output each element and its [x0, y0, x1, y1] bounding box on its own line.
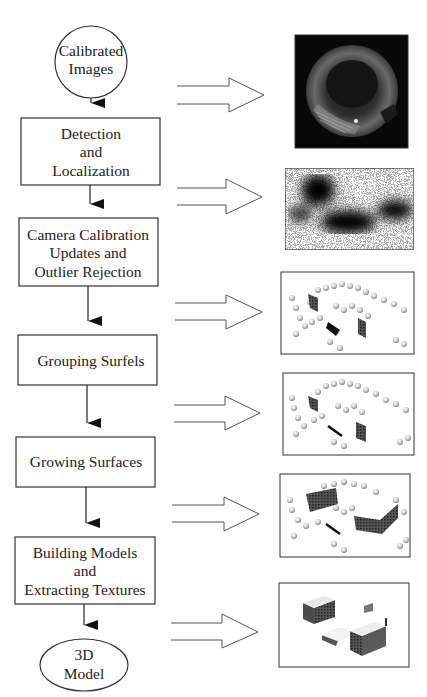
node-3d-model: 3D Model [40, 639, 128, 691]
node-detection-localization: Detection and Localization [21, 118, 160, 185]
result-image-3d-model [279, 583, 409, 667]
node-label-line: Outlier Rejection [34, 263, 141, 280]
hollow-arrow-icon [177, 78, 264, 112]
node-label-line: Updates and [49, 244, 126, 261]
hollow-arrow-icon [177, 179, 262, 214]
result-image-fisheye [295, 35, 408, 148]
node-label-line: Calibrated [59, 42, 124, 59]
hollow-arrow-icon [175, 295, 262, 329]
node-label-line: Localization [52, 162, 130, 179]
result-image-detection-map [285, 168, 414, 250]
node-calibrated-images: Calibrated Images [55, 26, 127, 98]
node-label-line: Model [64, 665, 104, 682]
node-label-line: and [80, 143, 103, 160]
result-image-grown-surfaces [280, 474, 410, 557]
hollow-arrow-icon [174, 396, 260, 430]
node-label-line: Images [69, 60, 114, 77]
node-label-line: 3D [75, 646, 94, 663]
hollow-arrow-icon [171, 614, 258, 648]
node-label-line: Extracting Textures [24, 581, 145, 598]
node-camera-calibration: Camera Calibration Updates and Outlier R… [19, 218, 158, 286]
pipeline-diagram: Calibrated Images Detection and Localiza… [0, 0, 427, 697]
node-label-line: Camera Calibration [27, 226, 149, 243]
node-label-line: Detection [61, 125, 122, 142]
node-label-line: Building Models [33, 544, 138, 561]
node-grouping-surfels: Grouping Surfels [18, 335, 157, 385]
result-image-surfels-rejected [281, 272, 414, 354]
node-growing-surfaces: Growing Surfaces [16, 437, 155, 487]
node-label-line: and [74, 562, 97, 579]
node-label-line: Growing Surfaces [30, 453, 142, 470]
result-image-grouped-surfels [283, 373, 414, 455]
hollow-arrow-icon [172, 497, 259, 531]
node-building-models: Building Models and Extracting Textures [15, 537, 155, 604]
node-label-line: Grouping Surfels [37, 352, 144, 369]
